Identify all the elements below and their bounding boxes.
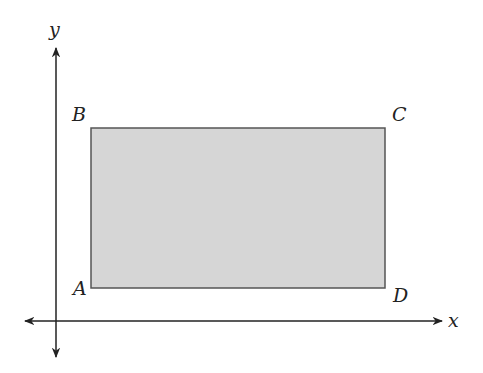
coordinate-diagram: y x B C A D (0, 0, 483, 373)
vertex-label-a: A (71, 277, 87, 299)
vertex-label-c: C (392, 103, 407, 125)
vertex-label-d: D (392, 284, 408, 306)
x-axis-label: x (448, 309, 459, 331)
shaded-rectangle (91, 128, 385, 288)
vertex-label-b: B (71, 103, 86, 125)
y-axis-label: y (48, 18, 60, 40)
